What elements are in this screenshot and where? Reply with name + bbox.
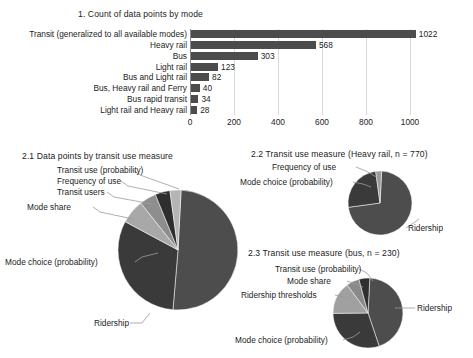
x-tick-label: 0: [188, 117, 193, 127]
bar-row: Bus and Light rail82: [190, 72, 432, 83]
label-ridership: Ridership: [94, 318, 129, 328]
bar-value-label: 1022: [419, 29, 437, 39]
bar: [191, 41, 316, 49]
bar-category-label: Bus rapid transit: [127, 94, 187, 104]
bar-value-label: 28: [200, 105, 209, 115]
bar-row: Heavy rail568: [190, 40, 432, 51]
bar-value-label: 82: [212, 72, 221, 82]
bar-category-label: Light rail and Heavy rail: [100, 105, 187, 115]
pie-slice-ridership: [173, 190, 238, 310]
label-mode-choice-probability: Mode choice (probability): [240, 177, 333, 187]
bar-value-label: 303: [261, 51, 275, 61]
figure-2-3-slices: [333, 278, 403, 348]
figure-2-3-pie-chart: 2.3 Transit use measure (bus, n = 230) T…: [235, 245, 473, 358]
figure-2-2-pie-chart: 2.2 Transit use measure (Heavy rail, n =…: [235, 145, 473, 250]
x-tick-label: 200: [227, 117, 241, 127]
figure-1-title: 1. Count of data points by mode: [78, 9, 203, 19]
label-transit-use-probability: Transit use (probability): [275, 264, 361, 274]
figure-2-3-title: 2.3 Transit use measure (bus, n = 230): [248, 248, 400, 258]
bar: [191, 30, 416, 38]
figure-2-2-title: 2.2 Transit use measure (Heavy rail, n =…: [251, 149, 428, 159]
leader-line-ridership: [130, 313, 150, 323]
label-mode-share: Mode share: [27, 202, 71, 212]
label-transit-users: Transit users: [57, 187, 105, 197]
figure-2-2-pie-svg: [235, 145, 473, 250]
label-mode-choice-probability: Mode choice (probability): [5, 257, 98, 267]
bar: [191, 95, 198, 103]
bar: [191, 106, 197, 114]
bar-category-label: Heavy rail: [150, 40, 187, 50]
bar-value-label: 34: [201, 94, 210, 104]
label-mode-choice-probability: Mode choice (probability): [235, 335, 328, 345]
x-tick-label: 600: [315, 117, 329, 127]
label-ridership-thresholds: Ridership thresholds: [241, 290, 317, 300]
label-mode-share: Mode share: [287, 276, 331, 286]
label-ridership: Ridership: [417, 303, 452, 313]
bar-row: Bus303: [190, 51, 432, 62]
bar: [191, 73, 209, 81]
bar-category-label: Bus, Heavy rail and Ferry: [93, 83, 187, 93]
bar-category-label: Bus: [173, 51, 187, 61]
label-transit-use-probability: Transit use (probability): [57, 165, 143, 175]
figure-2-1-pie-chart: 2.1 Data points by transit use measure T…: [0, 145, 250, 358]
leader-line-mode-share: [93, 207, 133, 219]
figure-1-x-axis-ticks: 02004006008001000: [190, 117, 432, 129]
bar-category-label: Bus and Light rail: [123, 72, 187, 82]
bar-row: Light rail and Heavy rail28: [190, 104, 432, 115]
bar: [191, 84, 200, 92]
bar: [191, 52, 258, 60]
bar-row: Bus rapid transit34: [190, 94, 432, 105]
figure-2-1-slices: [118, 190, 238, 310]
bar-value-label: 568: [319, 40, 333, 50]
bar-row: Bus, Heavy rail and Ferry40: [190, 83, 432, 94]
figure-1-plot-area: Transit (generalized to all available mo…: [190, 29, 432, 115]
bar-category-label: Transit (generalized to all available mo…: [29, 29, 187, 39]
label-frequency-of-use: Frequency of use: [57, 176, 121, 186]
label-frequency-of-use: Frequency of use: [272, 162, 336, 172]
bar-row: Light rail123: [190, 61, 432, 72]
leader-line-frequency-of-use: [121, 181, 167, 194]
bar-category-label: Light rail: [156, 62, 187, 72]
bar-row: Transit (generalized to all available mo…: [190, 29, 432, 40]
label-ridership: Ridership: [408, 223, 443, 233]
bar-value-label: 40: [203, 83, 212, 93]
figure-1-bar-chart: 1. Count of data points by mode Transit …: [0, 0, 473, 140]
bar: [191, 63, 218, 71]
x-tick-label: 800: [359, 117, 373, 127]
figure-2-2-slices: [348, 171, 412, 235]
x-tick-label: 1000: [401, 117, 419, 127]
x-tick-label: 400: [271, 117, 285, 127]
bar-value-label: 123: [221, 62, 235, 72]
